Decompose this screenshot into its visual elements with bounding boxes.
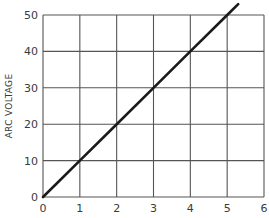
y-axis-label: ARC VOLTAGE xyxy=(4,74,14,139)
y-tick-label: 20 xyxy=(24,118,38,131)
y-tick-label: 10 xyxy=(24,155,38,168)
x-axis-ticks: 0123456 xyxy=(40,202,268,215)
line-chart: 01020304050 0123456 ARC VOLTAGE xyxy=(0,0,269,218)
x-tick-label: 5 xyxy=(224,202,231,215)
x-tick-label: 2 xyxy=(113,202,120,215)
y-tick-label: 30 xyxy=(24,82,38,95)
x-tick-label: 4 xyxy=(187,202,194,215)
grid xyxy=(43,15,264,197)
x-tick-label: 6 xyxy=(261,202,268,215)
y-tick-label: 0 xyxy=(31,191,38,204)
y-axis-ticks: 01020304050 xyxy=(24,9,38,204)
data-line xyxy=(43,4,238,197)
x-tick-label: 1 xyxy=(76,202,83,215)
y-tick-label: 50 xyxy=(24,9,38,22)
x-tick-label: 0 xyxy=(40,202,47,215)
y-tick-label: 40 xyxy=(24,45,38,58)
x-tick-label: 3 xyxy=(150,202,157,215)
